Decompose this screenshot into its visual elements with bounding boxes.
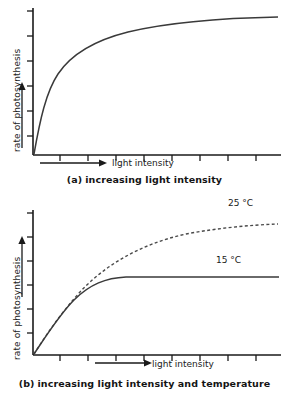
x-axis-label-a: light intensity: [112, 158, 174, 168]
series-label-15c: 15 °C: [216, 255, 241, 265]
caption-a-tag: (a): [67, 174, 82, 185]
chart-a-svg: [0, 0, 289, 172]
figure-b: rate of photosynthesis light intensity 2…: [0, 192, 289, 402]
curve-25c: [34, 224, 278, 354]
x-axis-label-b: light intensity: [152, 359, 214, 369]
figure-a: rate of photosynthesis light intensity (…: [0, 0, 289, 192]
plot-area-b: rate of photosynthesis light intensity 2…: [0, 192, 289, 374]
caption-a: (a)increasing light intensity: [0, 174, 289, 185]
curve-15c: [34, 277, 279, 354]
y-axis-ticks-a: [27, 11, 33, 136]
plot-area-a: rate of photosynthesis light intensity: [0, 0, 289, 172]
x-axis-arrow-a: [40, 159, 107, 166]
caption-b-text: increasing light intensity and temperatu…: [38, 378, 271, 389]
y-axis-label-b: rate of photosynthesis: [12, 257, 22, 360]
y-axis-label-a: rate of photosynthesis: [12, 49, 22, 152]
caption-a-text: increasing light intensity: [85, 174, 222, 185]
series-label-25c: 25 °C: [228, 198, 253, 208]
caption-b: (b)increasing light intensity and temper…: [0, 378, 289, 389]
curve-photosynthesis-a: [34, 17, 278, 154]
chart-b-svg: [0, 192, 289, 374]
caption-b-tag: (b): [19, 378, 35, 389]
y-axis-ticks-b: [27, 213, 33, 333]
